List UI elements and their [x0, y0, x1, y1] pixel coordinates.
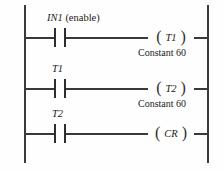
coil-2[interactable]: (T2) — [148, 78, 194, 98]
coil-label-1: T1 — [161, 32, 180, 43]
coil-annotation-1: Constant 60 — [138, 47, 186, 59]
contact-label-3: T2 — [52, 108, 63, 120]
contact-bar-left-1 — [54, 28, 56, 47]
normally-open-contact-1[interactable] — [54, 28, 69, 47]
contact-bar-right-2 — [64, 79, 66, 98]
coil-label-3: CR — [160, 128, 181, 139]
right-power-rail — [207, 5, 209, 163]
contact-bar-right-3 — [64, 124, 66, 143]
coil-label-2: T2 — [161, 83, 180, 94]
ladder-logic-diagram: IN1 (enable) (T1) Constant 60 T1 (T2) Co… — [0, 0, 224, 170]
coil-1[interactable]: (T1) — [148, 27, 194, 47]
coil-close-paren-1: ) — [181, 29, 186, 45]
contact-label-1: IN1 (enable) — [47, 12, 100, 24]
contact-bar-left-2 — [54, 79, 56, 98]
contact-label-2-tag: T1 — [52, 63, 63, 74]
contact-label-2: T1 — [52, 63, 63, 75]
contact-label-3-tag: T2 — [52, 108, 63, 119]
normally-open-contact-2[interactable] — [54, 79, 69, 98]
contact-label-1-tag: IN1 — [47, 12, 63, 23]
contact-bar-right-1 — [64, 28, 66, 47]
coil-3[interactable]: (CR) — [148, 123, 194, 143]
coil-close-paren-3: ) — [182, 125, 187, 141]
coil-close-paren-2: ) — [181, 80, 186, 96]
left-power-rail — [24, 5, 26, 163]
contact-label-1-note: (enable) — [63, 12, 100, 23]
normally-open-contact-3[interactable] — [54, 124, 69, 143]
coil-annotation-2: Constant 60 — [138, 98, 186, 110]
contact-bar-left-3 — [54, 124, 56, 143]
